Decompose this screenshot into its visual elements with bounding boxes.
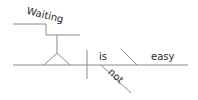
gerund-step-line: [13, 24, 80, 35]
verb-word: is: [99, 52, 107, 62]
complement-slash: [122, 50, 137, 65]
complement-word: easy: [151, 52, 174, 62]
pedestal-fork: [44, 53, 70, 65]
